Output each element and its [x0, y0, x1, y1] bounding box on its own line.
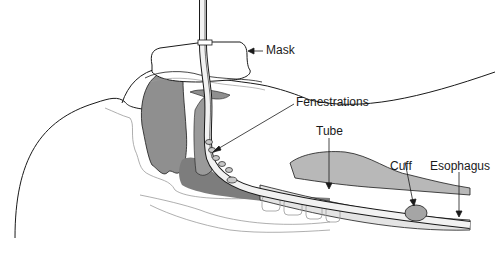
anatomy-illustration: [0, 0, 500, 253]
head-outline: [15, 98, 150, 238]
esophagus-label: Esophagus: [430, 160, 490, 172]
airway-diagram: Mask Fenestrations Tube Cuff Esophagus: [0, 0, 500, 253]
nasopharynx-tissue: [141, 70, 186, 174]
fenestrations-label: Fenestrations: [296, 96, 369, 108]
tube-collar: [198, 40, 212, 45]
cuff-label: Cuff: [390, 160, 412, 172]
mask-label: Mask: [266, 44, 295, 56]
tube-label: Tube: [316, 125, 343, 137]
cuff-balloon: [405, 205, 427, 221]
